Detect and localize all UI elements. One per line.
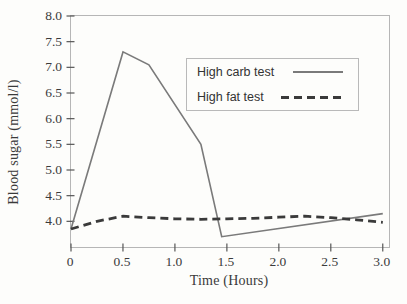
x-axis-title: Time (Hours) <box>70 273 388 289</box>
x-tick-label: 2.5 <box>321 255 338 269</box>
y-tick-label: 8.0 <box>22 9 62 23</box>
y-axis-title: Blood sugar (mmol/l) <box>6 79 22 204</box>
y-tick-label: 6.5 <box>22 86 62 100</box>
dashed-line-sample <box>281 96 343 99</box>
y-tick-label: 6.0 <box>22 112 62 126</box>
legend-label-high-fat: High fat test <box>197 90 264 104</box>
x-tick-label: 1.5 <box>217 255 234 269</box>
x-tick-label: 3.0 <box>373 255 390 269</box>
chart-container: Blood sugar (mmol/l) High carb test High… <box>0 0 407 304</box>
x-tick-label: 2.0 <box>269 255 286 269</box>
y-tick-label: 4.5 <box>22 189 62 203</box>
plot-area: High carb test High fat test <box>70 15 390 248</box>
x-tick-label: 0.5 <box>114 255 131 269</box>
legend-item-high-fat: High fat test <box>187 90 358 104</box>
x-tick-label: 0 <box>67 255 74 269</box>
legend-label-high-carb: High carb test <box>197 65 274 79</box>
series-line-high-fat-test <box>71 216 383 229</box>
y-tick-label: 5.0 <box>22 163 62 177</box>
y-tick-label: 5.5 <box>22 137 62 151</box>
y-tick-label: 7.0 <box>22 60 62 74</box>
plot-svg <box>71 16 389 247</box>
legend: High carb test High fat test <box>186 58 359 111</box>
solid-line-sample <box>293 71 343 73</box>
x-tick-label: 1.0 <box>165 255 182 269</box>
legend-item-high-carb: High carb test <box>187 65 358 79</box>
y-tick-label: 4.0 <box>22 214 62 228</box>
y-tick-label: 7.5 <box>22 35 62 49</box>
